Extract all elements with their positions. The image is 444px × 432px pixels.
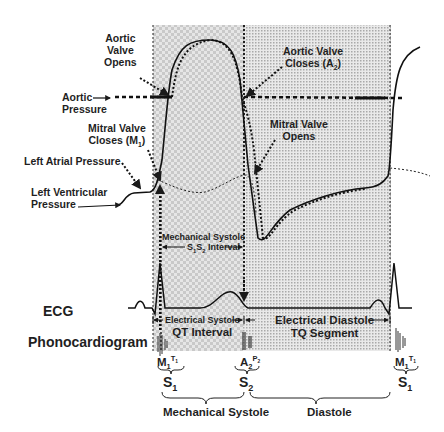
label-left-ventricular-pressure: Left Ventricular Pressure [31, 186, 107, 210]
label-m1-t1: M1T1 [157, 352, 178, 373]
label-diastole: Diastole [307, 406, 352, 419]
label-mitral-valve-opens: Mitral Valve Opens [270, 118, 328, 142]
label-mechanical-systole-interval: Mechanical Systole S1S2 Interval [162, 232, 245, 256]
label-electrical-diastole: Electrical Diastole TQ Segment [275, 314, 374, 340]
systole-shade [153, 25, 243, 351]
label-s1-2: S1 [398, 374, 412, 396]
label-aortic-pressure: Aortic Pressure [62, 91, 107, 115]
label-aortic-valve-opens: Aortic Valve Opens [104, 32, 137, 68]
label-mechanical-systole: Mechanical Systole [163, 406, 269, 419]
s1-sound-bars-2 [396, 328, 405, 352]
label-ecg: ECG [43, 303, 73, 319]
label-left-atrial-pressure: Left Atrial Pressure [24, 155, 120, 167]
cardiac-cycle-diagram [0, 0, 444, 432]
label-s1: S1 [163, 374, 177, 396]
label-electrical-systole: Electrical Systole QT Interval [165, 315, 240, 339]
label-m1-t1-2: M1T1 [395, 352, 416, 373]
label-a2-p2: A2P2 [240, 352, 260, 373]
label-s2: S2 [239, 374, 253, 396]
label-aortic-valve-closes: Aortic Valve Closes (A2) [283, 45, 343, 74]
label-phonocardiogram: Phonocardiogram [28, 334, 148, 350]
label-mitral-valve-closes: Mitral Valve Closes (M1) [88, 122, 146, 151]
